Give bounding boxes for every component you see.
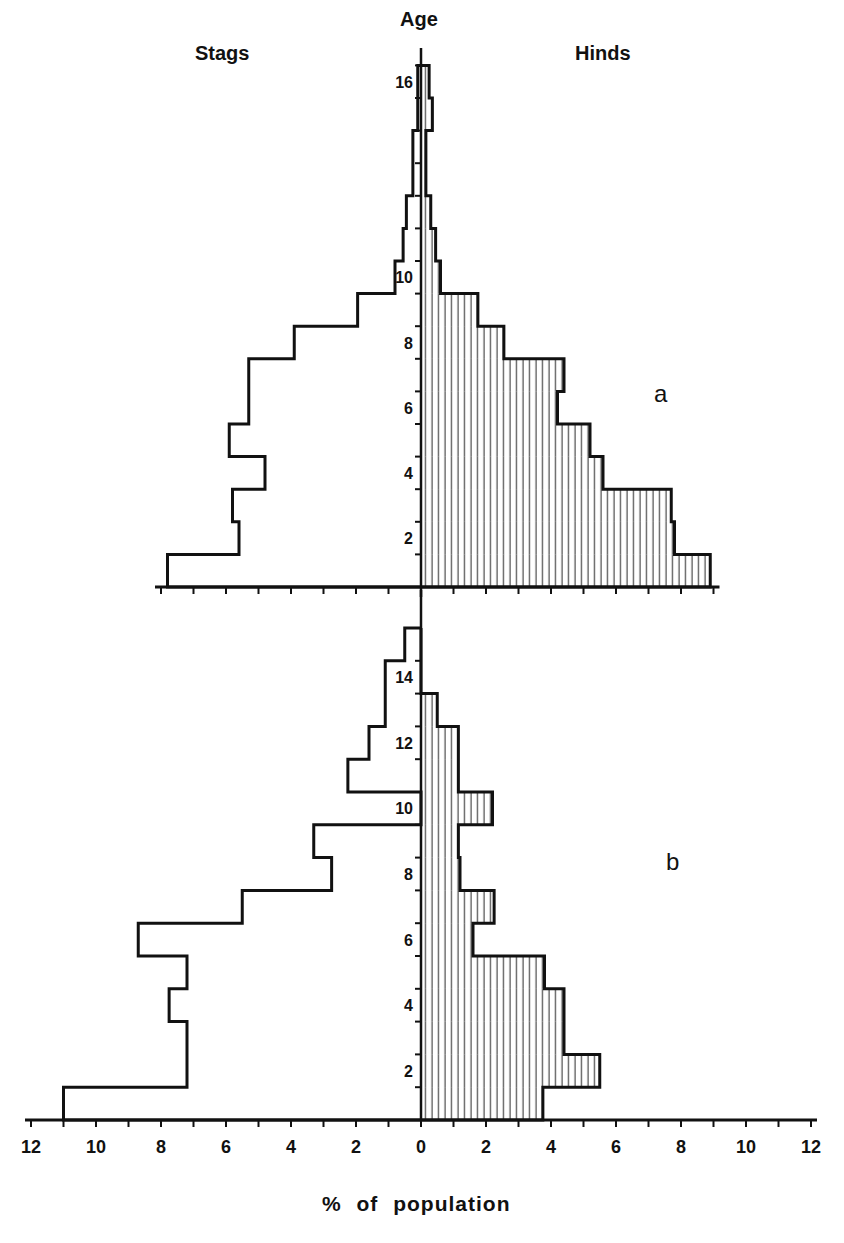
panel-a-label: a xyxy=(654,380,667,408)
age-tick-label: 2 xyxy=(404,1063,413,1080)
x-tick-label: 12 xyxy=(21,1137,41,1157)
age-tick-label: 10 xyxy=(395,269,413,286)
hinds-bar xyxy=(421,489,671,522)
hinds-bar xyxy=(421,261,441,294)
x-axis-tick-labels: 12108642024681012 xyxy=(21,1137,821,1157)
age-tick-label: 4 xyxy=(404,997,413,1014)
stags-outline xyxy=(168,65,422,587)
hinds-bar xyxy=(421,1022,564,1055)
age-tick-label: 8 xyxy=(404,866,413,883)
hinds-bar xyxy=(421,294,478,327)
age-tick-label: 2 xyxy=(404,530,413,547)
x-tick-label: 2 xyxy=(351,1137,361,1157)
hinds-bar xyxy=(421,989,564,1022)
age-tick-label: 10 xyxy=(395,800,413,817)
hinds-bar xyxy=(421,98,432,131)
hinds-bar xyxy=(421,825,458,858)
hinds-bar xyxy=(421,694,437,727)
hinds-bar xyxy=(421,956,545,989)
stags-label: Stags xyxy=(195,42,249,65)
hinds-bar xyxy=(421,228,436,261)
hinds-label: Hinds xyxy=(575,42,631,65)
hinds-bar xyxy=(421,923,473,956)
x-tick-label: 12 xyxy=(801,1137,821,1157)
x-tick-label: 4 xyxy=(546,1137,556,1157)
panel-b: 2468101214 xyxy=(25,590,817,1127)
hinds-bar xyxy=(421,858,460,891)
age-axis-title: Age xyxy=(400,8,438,31)
hinds-bar xyxy=(421,391,558,424)
population-pyramid-chart: 24681016 2468101214 12108642024681012 xyxy=(0,0,844,1243)
age-tick-label: 14 xyxy=(395,669,413,686)
hinds-bar xyxy=(421,759,458,792)
age-tick-label: 12 xyxy=(395,735,413,752)
panel-a: 24681016 xyxy=(155,48,720,597)
x-tick-label: 8 xyxy=(156,1137,166,1157)
x-tick-label: 6 xyxy=(611,1137,621,1157)
hinds-bar xyxy=(421,792,493,825)
x-tick-label: 10 xyxy=(736,1137,756,1157)
age-tick-label: 6 xyxy=(404,400,413,417)
age-tick-label: 8 xyxy=(404,335,413,352)
x-axis-title: % of population xyxy=(322,1192,510,1216)
age-tick-label: 6 xyxy=(404,932,413,949)
hinds-bar xyxy=(421,1087,543,1120)
hinds-bar xyxy=(421,522,675,555)
x-tick-label: 6 xyxy=(221,1137,231,1157)
x-tick-label: 2 xyxy=(481,1137,491,1157)
hinds-bar xyxy=(421,890,494,923)
panel-b-label: b xyxy=(666,848,679,876)
x-tick-label: 4 xyxy=(286,1137,296,1157)
x-tick-label: 8 xyxy=(676,1137,686,1157)
age-tick-label: 4 xyxy=(404,465,413,482)
x-tick-label: 0 xyxy=(416,1137,426,1157)
hinds-bar xyxy=(421,1054,600,1087)
stags-outline xyxy=(64,628,422,1120)
hinds-bar xyxy=(421,457,603,490)
x-tick-label: 10 xyxy=(86,1137,106,1157)
hinds-bar xyxy=(421,554,710,587)
hinds-bar xyxy=(421,326,504,359)
hinds-bar xyxy=(421,726,458,759)
age-tick-label: 16 xyxy=(395,74,413,91)
hinds-bar xyxy=(421,359,564,392)
hinds-bar xyxy=(421,424,590,457)
